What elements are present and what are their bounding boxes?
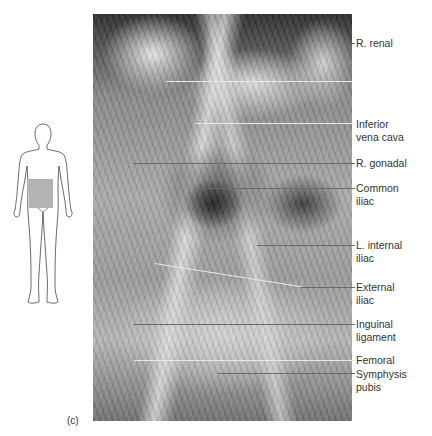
leader-line-l-internal-iliac (257, 245, 355, 246)
label-symphysis-pubis: Symphysis pubis (356, 368, 407, 393)
leader-line-r-gonadal (133, 163, 355, 164)
label-inguinal-ligament: Inguinal ligament (356, 318, 396, 343)
leader-line-symphysis-pubis (218, 373, 355, 374)
leader-line-inguinal-ligament (133, 324, 355, 325)
leader-line-inferior-vena-cava (195, 123, 355, 124)
figure-part-label: (c) (67, 415, 79, 426)
label-external-iliac: External iliac (356, 281, 395, 306)
leader-line-external-iliac-out (300, 287, 355, 288)
leader-line-common-iliac (195, 188, 355, 189)
leader-line-r-renal (166, 81, 352, 82)
leader-line-r-renal-out (352, 43, 355, 44)
body-outline-icon (6, 122, 80, 308)
label-inferior-vena-cava: Inferior vena cava (356, 118, 404, 143)
label-femoral: Femoral (356, 354, 395, 367)
label-r-gonadal: R. gonadal (356, 157, 407, 170)
label-common-iliac: Common iliac (356, 182, 399, 207)
label-r-renal: R. renal (356, 37, 393, 50)
leader-line-femoral (134, 360, 355, 361)
figure: R. renal Inferior vena cava R. gonadal C… (0, 0, 432, 436)
label-l-internal-iliac: L. internal iliac (356, 239, 402, 264)
